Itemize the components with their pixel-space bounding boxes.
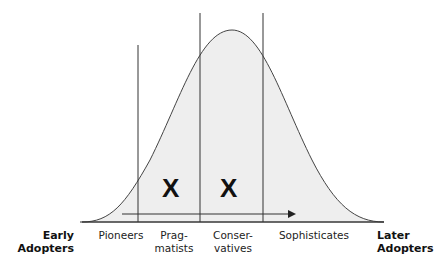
marker-x-conservatives: X (220, 173, 237, 204)
label-conservatives: Conser- vatives (208, 229, 258, 255)
label-pioneers: Pioneers (90, 229, 152, 242)
label-pragmatists-line2: matists (152, 242, 196, 255)
label-pioneers-text: Pioneers (90, 229, 152, 242)
marker-x-pragmatists: X (162, 173, 179, 204)
label-pragmatists: Prag- matists (152, 229, 196, 255)
label-adopters-right: Adopters (377, 242, 443, 255)
label-sophisticates-text: Sophisticates (272, 229, 356, 242)
label-later: Later (377, 229, 443, 242)
label-conservatives-line1: Conser- (208, 229, 258, 242)
label-early-adopters: Early Adopters (8, 229, 74, 255)
label-pragmatists-line1: Prag- (152, 229, 196, 242)
label-sophisticates: Sophisticates (272, 229, 356, 242)
label-later-adopters: Later Adopters (377, 229, 443, 255)
label-early: Early (8, 229, 74, 242)
label-adopters-left: Adopters (8, 242, 74, 255)
label-conservatives-line2: vatives (208, 242, 258, 255)
